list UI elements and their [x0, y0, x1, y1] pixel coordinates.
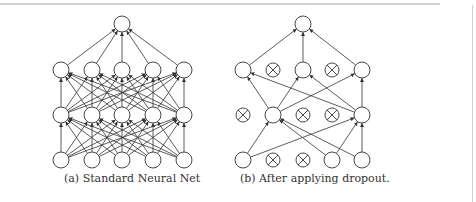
neuron-node: [84, 152, 100, 168]
neuron-node: [235, 62, 251, 78]
neuron-node: [114, 62, 130, 78]
neuron-node: [53, 152, 69, 168]
neuron-node: [354, 62, 370, 78]
neuron-node: [84, 62, 100, 78]
neuron-node: [295, 16, 311, 32]
neuron-node: [114, 107, 130, 123]
neuron-node: [265, 107, 281, 123]
dropped-neuron-icon: [236, 108, 250, 122]
neuron-node: [176, 62, 192, 78]
neuron-node: [114, 152, 130, 168]
dropped-neuron-icon: [325, 108, 339, 122]
neuron-node: [235, 152, 251, 168]
dropped-neuron-icon: [296, 108, 310, 122]
neuron-node: [145, 152, 161, 168]
caption-standard-net: (a) Standard Neural Net: [64, 172, 200, 185]
neuron-node: [53, 62, 69, 78]
neuron-node: [53, 107, 69, 123]
dropped-neuron-icon: [296, 153, 310, 167]
neuron-node: [354, 152, 370, 168]
dropped-neuron-icon: [266, 153, 280, 167]
neuron-node: [145, 107, 161, 123]
neuron-node: [324, 152, 340, 168]
neuron-node: [145, 62, 161, 78]
neuron-node: [295, 62, 311, 78]
neuron-node: [176, 152, 192, 168]
neuron-node: [114, 16, 130, 32]
neuron-node: [354, 107, 370, 123]
caption-dropout: (b) After applying dropout.: [240, 172, 390, 185]
neuron-node: [84, 107, 100, 123]
dropped-neuron-icon: [266, 63, 280, 77]
neuron-node: [176, 107, 192, 123]
dropped-neuron-icon: [325, 63, 339, 77]
